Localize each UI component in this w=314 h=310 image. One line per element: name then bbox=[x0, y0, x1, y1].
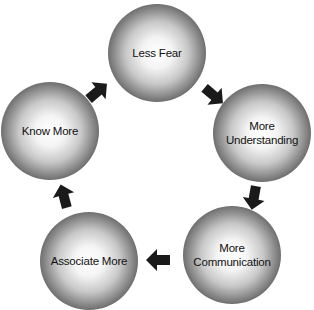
arrow-icon bbox=[198, 80, 231, 112]
arrow-icon bbox=[82, 75, 115, 107]
arrow-icon bbox=[241, 184, 267, 211]
arrow-icon bbox=[50, 182, 77, 211]
arrow-icon bbox=[146, 249, 170, 271]
